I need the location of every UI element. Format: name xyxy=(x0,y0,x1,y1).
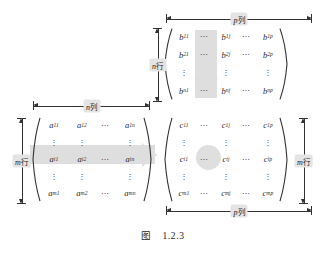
ruler-label-unit: 行 xyxy=(303,158,310,167)
element-subscript: i1 xyxy=(184,157,189,163)
matrix-horizontal-ellipsis: ⋯ xyxy=(238,117,256,134)
ruler-arrow-down xyxy=(301,199,305,204)
matrix-spacer xyxy=(196,168,214,185)
matrix-spacer xyxy=(238,168,256,185)
matrix-vertical-ellipsis: ⋮ xyxy=(172,64,196,82)
matrix-vertical-ellipsis: ⋮ xyxy=(256,168,280,185)
element-subscript: 1p xyxy=(267,123,273,129)
matrix-element: bn1 xyxy=(172,82,196,100)
ruler-arrow-up xyxy=(301,118,305,123)
ruler-arrow-right xyxy=(307,16,312,20)
matrix-vertical-ellipsis: ⋮ xyxy=(256,64,280,82)
matrix-element: b1p xyxy=(256,28,280,46)
matrix-element: am1 xyxy=(40,185,68,202)
matrix-horizontal-ellipsis: ⋯ xyxy=(238,28,256,46)
ruler-label-unit: 列 xyxy=(238,207,245,216)
matrix-vertical-ellipsis: ⋮ xyxy=(172,134,196,151)
matrix-element: c1j xyxy=(214,117,238,134)
element-subscript: mj xyxy=(225,191,231,197)
ruler-label-unit: 列 xyxy=(90,102,97,111)
matrix-element: cm1 xyxy=(172,185,196,202)
matrix-b-grid: b11⋯b1j⋯b1pb21⋯b2j⋯b2p⋮⋮⋮bn1⋯bnj⋯bnp xyxy=(172,28,280,100)
ruler-arrow-left xyxy=(33,103,38,107)
matrix-b: b11⋯b1j⋯b1pb21⋯b2j⋯b2p⋮⋮⋮bn1⋯bnj⋯bnp xyxy=(172,28,280,100)
element-subscript: 12 xyxy=(81,123,87,129)
matrix-c: c11⋯c1j⋯c1p⋮⋮⋮ci1⋯cij⋯cip⋮⋮⋮cm1⋯cmj⋯cmp xyxy=(172,117,280,202)
ruler-label-c-rows: m行 xyxy=(294,155,313,168)
ruler-label-c-columns: p列 xyxy=(231,204,248,217)
element-subscript: 2j xyxy=(226,52,231,58)
matrix-horizontal-ellipsis: ⋯ xyxy=(238,46,256,64)
matrix-horizontal-ellipsis: ⋯ xyxy=(238,151,256,168)
figure-caption-number: 1.2.3 xyxy=(163,231,185,241)
element-subscript: 11 xyxy=(183,34,188,40)
ruler-arrow-left xyxy=(166,208,171,212)
element-subscript: 1p xyxy=(267,34,273,40)
figure-caption-label: 图 xyxy=(141,231,151,241)
figure-canvas: b11⋯b1j⋯b1pb21⋯b2j⋯b2p⋮⋮⋮bn1⋯bnj⋯bnp p列 … xyxy=(0,0,325,257)
ruler-b-rows: n行 xyxy=(152,28,163,102)
matrix-vertical-ellipsis: ⋮ xyxy=(40,168,68,185)
ruler-arrow-right xyxy=(145,103,150,107)
matrix-element: cmj xyxy=(214,185,238,202)
matrix-horizontal-ellipsis: ⋯ xyxy=(196,117,214,134)
element-subscript: n1 xyxy=(183,88,189,94)
right-paren-c xyxy=(279,117,288,202)
element-subscript: 11 xyxy=(53,123,58,129)
matrix-element: c11 xyxy=(172,117,196,134)
matrix-element: cip xyxy=(256,151,280,168)
ruler-arrow-up xyxy=(155,28,159,33)
ruler-arrow-down xyxy=(19,199,23,204)
matrix-horizontal-ellipsis: ⋯ xyxy=(196,28,214,46)
ruler-a-columns: n列 xyxy=(33,100,150,111)
matrix-horizontal-ellipsis: ⋯ xyxy=(196,46,214,64)
matrix-element: ain xyxy=(116,151,144,168)
element-subscript: m1 xyxy=(53,191,60,197)
matrix-vertical-ellipsis: ⋮ xyxy=(214,134,238,151)
element-subscript: m1 xyxy=(182,191,189,197)
element-subscript: mp xyxy=(266,191,273,197)
element-subscript: 1j xyxy=(226,123,231,129)
element-subscript: ij xyxy=(226,157,229,163)
right-paren-b xyxy=(279,28,288,100)
matrix-spacer xyxy=(196,64,214,82)
matrix-a-grid: a11a12⋯a1n⋮⋮⋮ai1ai2⋯ain⋮⋮⋮am1am2⋯amn xyxy=(40,117,144,202)
matrix-spacer xyxy=(238,134,256,151)
element-subscript: ip xyxy=(268,157,273,163)
matrix-spacer xyxy=(196,134,214,151)
matrix-horizontal-ellipsis: ⋯ xyxy=(196,151,214,168)
element-subscript: in xyxy=(130,157,135,163)
element-subscript: 2p xyxy=(267,52,273,58)
matrix-element: ai1 xyxy=(40,151,68,168)
matrix-element: cij xyxy=(214,151,238,168)
ruler-label-unit: 行 xyxy=(21,158,28,167)
matrix-vertical-ellipsis: ⋮ xyxy=(214,168,238,185)
left-paren-a xyxy=(32,117,41,202)
matrix-horizontal-ellipsis: ⋯ xyxy=(96,151,116,168)
ruler-c-columns: p列 xyxy=(166,205,312,216)
element-subscript: mn xyxy=(129,191,136,197)
matrix-spacer xyxy=(96,134,116,151)
element-subscript: i1 xyxy=(54,157,59,163)
matrix-vertical-ellipsis: ⋮ xyxy=(40,134,68,151)
ruler-b-columns: p列 xyxy=(166,13,312,24)
ruler-arrow-right xyxy=(307,208,312,212)
matrix-spacer xyxy=(238,64,256,82)
matrix-element: ai2 xyxy=(68,151,96,168)
ruler-a-rows: m行 xyxy=(16,118,27,204)
matrix-horizontal-ellipsis: ⋯ xyxy=(96,117,116,134)
matrix-horizontal-ellipsis: ⋯ xyxy=(96,185,116,202)
matrix-vertical-ellipsis: ⋮ xyxy=(68,168,96,185)
matrix-vertical-ellipsis: ⋮ xyxy=(116,134,144,151)
matrix-horizontal-ellipsis: ⋯ xyxy=(238,185,256,202)
matrix-element: bnj xyxy=(214,82,238,100)
matrix-vertical-ellipsis: ⋮ xyxy=(172,168,196,185)
left-paren-c xyxy=(164,117,173,202)
matrix-element: a1n xyxy=(116,117,144,134)
ruler-arrow-left xyxy=(166,16,171,20)
ruler-label-unit: 列 xyxy=(238,15,245,24)
matrix-element: c1p xyxy=(256,117,280,134)
matrix-element: b2j xyxy=(214,46,238,64)
matrix-vertical-ellipsis: ⋮ xyxy=(256,134,280,151)
matrix-element: a11 xyxy=(40,117,68,134)
